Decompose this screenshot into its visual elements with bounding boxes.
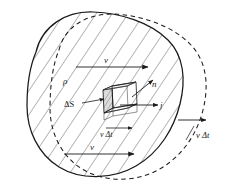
displacement-label-right: v Δt xyxy=(196,131,209,140)
surface-element-label: ΔS xyxy=(64,100,74,109)
hatching xyxy=(0,0,232,192)
velocity-label-top: v xyxy=(104,56,108,65)
density-label: ρ xyxy=(63,77,67,86)
dashed-boundary xyxy=(50,14,206,179)
current-density-label: j xyxy=(160,101,163,110)
displacement-tick xyxy=(186,126,194,140)
physics-diagram-figure: v v ρ ΔS n j v Δt v Δt xyxy=(0,0,232,192)
normal-label: n xyxy=(152,80,157,89)
volume-element xyxy=(92,82,137,120)
displacement-label-middle: v Δt xyxy=(100,131,112,139)
diagram-canvas xyxy=(0,0,232,192)
velocity-label-bottom: v xyxy=(90,143,94,152)
